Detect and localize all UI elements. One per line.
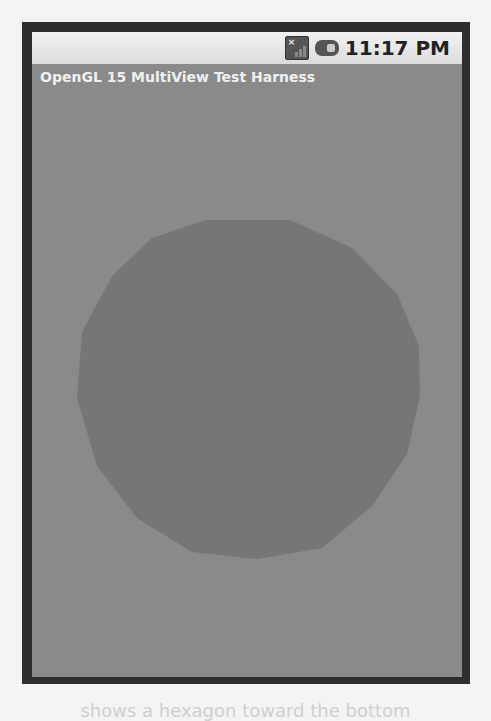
device-frame: × 11:17 PM OpenGL 15 MultiView Test Harn…	[22, 22, 470, 684]
opengl-surface-view[interactable]	[32, 96, 462, 677]
clock: 11:17 PM	[345, 36, 450, 60]
polygon-circle-shape	[32, 96, 462, 677]
device-screen: × 11:17 PM OpenGL 15 MultiView Test Harn…	[32, 32, 462, 677]
title-bar: OpenGL 15 MultiView Test Harness	[32, 64, 462, 96]
page-caption-fragment: shows a hexagon toward the bottom	[0, 700, 491, 721]
status-bar: × 11:17 PM	[32, 32, 462, 64]
status-icons: × 11:17 PM	[285, 36, 450, 60]
battery-icon	[315, 40, 339, 56]
app-title: OpenGL 15 MultiView Test Harness	[40, 69, 315, 85]
signal-no-sim-icon: ×	[285, 36, 309, 60]
